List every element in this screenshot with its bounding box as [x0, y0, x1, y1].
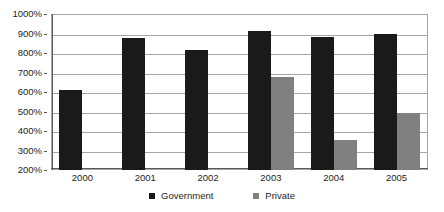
bar-government-2005 [374, 34, 397, 171]
bar-government-2004 [311, 37, 334, 170]
y-axis-tick [44, 53, 47, 54]
legend-label: Private [265, 190, 295, 201]
bar-government-2000 [59, 90, 82, 170]
y-axis-tick-label: 900% [18, 29, 42, 39]
y-axis-tick-label: 200% [18, 165, 42, 175]
y-axis-tick [44, 73, 47, 74]
x-axis-tick-label: 2003 [260, 172, 281, 184]
y-axis-tick [44, 92, 47, 93]
y-axis-tick [44, 151, 47, 152]
y-axis-tick [44, 14, 47, 15]
x-axis-tick-label: 2004 [323, 172, 344, 184]
y-axis-tick-label: 500% [18, 107, 42, 117]
bar-government-2001 [122, 38, 145, 170]
y-axis-tick-label: 1000% [12, 9, 42, 19]
y-axis-tick-label: 700% [18, 68, 42, 78]
y-axis-tick-label: 600% [18, 87, 42, 97]
legend-item-government[interactable]: Government [149, 190, 213, 201]
legend-swatch-icon [149, 193, 155, 199]
x-axis-tick-label: 2005 [386, 172, 407, 184]
bar-private-2003 [271, 77, 294, 170]
y-axis-tick [44, 34, 47, 35]
x-axis-labels: 200020012002200320042005 [51, 171, 428, 187]
y-axis-tick [44, 112, 47, 113]
bar-government-2003 [248, 31, 271, 170]
y-axis-labels: 200%300%400%500%600%700%800%900%1000% [0, 14, 47, 170]
bar-government-2002 [185, 50, 208, 170]
chart-legend: GovernmentPrivate [0, 190, 444, 201]
legend-label: Government [161, 190, 213, 201]
y-axis-tick-label: 400% [18, 126, 42, 136]
x-axis-tick-label: 2001 [135, 172, 156, 184]
y-axis-tick-label: 300% [18, 146, 42, 156]
legend-item-private[interactable]: Private [253, 190, 295, 201]
y-axis-tick [44, 170, 47, 171]
bar-private-2005 [397, 113, 420, 170]
x-axis-tick-label: 2002 [198, 172, 219, 184]
y-axis-tick [44, 131, 47, 132]
x-axis-tick-label: 2000 [72, 172, 93, 184]
y-axis-tick-label: 800% [18, 48, 42, 58]
bars-layer [51, 14, 428, 170]
bar-chart: 200%300%400%500%600%700%800%900%1000% 20… [0, 0, 444, 212]
legend-swatch-icon [253, 193, 259, 199]
bar-private-2004 [334, 140, 357, 170]
